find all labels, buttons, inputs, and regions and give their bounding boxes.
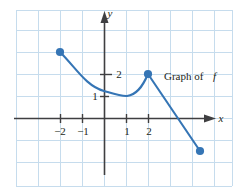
- marker-right-endpoint: [196, 147, 204, 155]
- x-tick-label-1: 1: [124, 125, 130, 137]
- annotation-label-text: Graph of: [164, 70, 204, 82]
- x-tick-label-2: 2: [146, 125, 152, 137]
- x-tick-label-neg1: −1: [77, 125, 89, 137]
- y-axis-label: y: [107, 7, 113, 19]
- x-tick-label-neg2: −2: [54, 125, 66, 137]
- curve-markers: [56, 48, 204, 155]
- annotation-graph-of-f: Graph of f: [164, 70, 218, 82]
- graph-canvas: x y −2 −1 1 2 1 2 Graph of f: [0, 0, 246, 194]
- figure-graph-of-f: x y −2 −1 1 2 1 2 Graph of f: [0, 0, 246, 194]
- marker-corner-point: [144, 70, 152, 78]
- x-axis-label: x: [218, 112, 224, 124]
- annotation-label-function: f: [213, 70, 218, 82]
- y-tick-label-1: 1: [92, 90, 98, 102]
- axes: [14, 11, 216, 175]
- marker-left-endpoint: [56, 48, 64, 56]
- y-tick-label-2: 2: [116, 68, 122, 80]
- grid-lines: [16, 10, 233, 187]
